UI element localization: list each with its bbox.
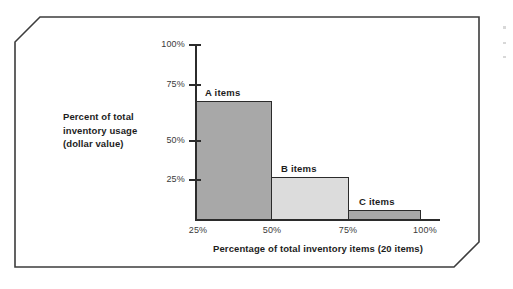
x-axis-line [195, 219, 440, 221]
x-tick-label-100: 100% [413, 225, 437, 235]
bar-a-items [196, 101, 272, 220]
y-tick-label-100-wrap: 100% [139, 39, 185, 51]
bar-label-b-items: B items [281, 163, 317, 174]
y-axis-line [195, 44, 197, 220]
y-tick-label-75-wrap: 75% [139, 79, 185, 91]
bar-label-a-items: A items [205, 87, 240, 98]
y-tick-label-75: 75% [143, 79, 185, 89]
y-tick-label-25: 25% [143, 174, 185, 184]
y-tick-50 [189, 140, 201, 142]
page-edge-artifact [503, 26, 506, 29]
y-tick-75 [189, 84, 201, 86]
bar-label-c-items: C items [359, 196, 395, 207]
y-tick-label-25-wrap: 25% [139, 174, 185, 186]
y-axis-title-line-2: inventory usage [63, 124, 173, 138]
x-tick-label-50: 50% [263, 225, 282, 235]
y-tick-25 [189, 179, 201, 181]
y-axis-title-line-3: (dollar value) [63, 137, 173, 151]
bar-b-items [271, 177, 349, 220]
page-edge-artifact [503, 56, 506, 58]
y-axis-title-line-1: Percent of total [63, 110, 173, 124]
y-tick-label-100: 100% [143, 39, 185, 49]
x-tick-label-75: 75% [339, 225, 358, 235]
y-tick-100 [189, 44, 201, 46]
page-edge-artifact [503, 42, 506, 44]
x-axis-title: Percentage of total inventory items (20 … [196, 243, 440, 254]
x-tick-label-25: 25% [189, 225, 208, 235]
figure-container: A items B items C items 100% 75% 50% 25%… [0, 0, 513, 289]
y-axis-title: Percent of total inventory usage (dollar… [63, 110, 173, 151]
